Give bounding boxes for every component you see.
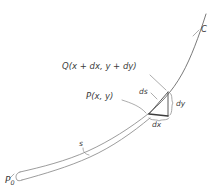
curve-c-lower-outer <box>20 114 148 172</box>
label-point-q: Q(x + dx, y + dy) <box>62 62 137 71</box>
leader-q <box>150 75 166 90</box>
label-curve-c: C <box>201 25 207 34</box>
arc-length-diagram: Q(x + dx, y + dy) P(x, y) ds dy dx s C P… <box>0 0 220 194</box>
brace-dy <box>170 93 173 115</box>
label-segment-ds: ds <box>139 88 148 96</box>
leader-c <box>193 30 199 36</box>
curve-c-lower-inner <box>22 118 150 180</box>
label-point-p0: P0 <box>5 176 15 186</box>
leader-ds <box>151 93 157 99</box>
label-arc-s: s <box>79 140 83 148</box>
curve-start-cap <box>16 172 22 181</box>
label-segment-dx: dx <box>152 121 161 129</box>
label-point-p0-subscript: 0 <box>10 179 14 187</box>
segment-ds <box>149 92 168 114</box>
leader-p <box>122 100 146 113</box>
label-segment-dy: dy <box>176 100 185 108</box>
segment-dx <box>149 114 168 116</box>
label-point-p: P(x, y) <box>86 92 113 101</box>
